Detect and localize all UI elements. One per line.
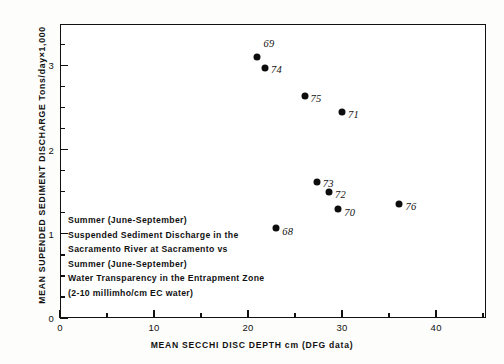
- x-axis-tick-label: 30: [337, 322, 348, 333]
- x-axis-tick: [341, 310, 342, 318]
- scatter-point: [339, 109, 346, 116]
- chart-page: MEAN SUPENDED SEDIMENT DISCHARGE Tons/da…: [0, 0, 504, 364]
- annotation-line: Summer (June-September): [68, 257, 265, 272]
- x-axis-tick-label: 20: [242, 322, 253, 333]
- annotation-line: Suspended Sediment Discharge in the: [68, 228, 265, 243]
- scatter-point-label: 74: [271, 64, 282, 75]
- y-axis-minor-tick: [60, 296, 65, 297]
- x-axis-tick-label: 0: [57, 322, 63, 333]
- y-axis-minor-tick: [60, 107, 65, 108]
- x-axis-minor-tick: [482, 313, 483, 318]
- scatter-point: [396, 201, 403, 208]
- scatter-point-label: 73: [323, 178, 334, 189]
- y-axis-tick-label: 1: [44, 228, 54, 239]
- y-axis-minor-tick: [60, 212, 65, 213]
- scatter-point-label: 76: [405, 201, 416, 212]
- scatter-point: [313, 178, 320, 185]
- y-axis-tick: [60, 65, 68, 66]
- scatter-point: [335, 206, 342, 213]
- y-axis-minor-tick: [60, 170, 65, 171]
- y-axis-minor-tick: [60, 191, 65, 192]
- annotation-line: Summer (June-September): [68, 213, 265, 228]
- y-axis-minor-tick: [60, 44, 65, 45]
- y-axis-minor-tick: [60, 275, 65, 276]
- x-axis-tick: [153, 310, 154, 318]
- annotation-line: Water Transparency in the Entrapment Zon…: [68, 271, 265, 286]
- scatter-point-label: 75: [311, 93, 322, 104]
- annotation-line: Sacramento River at Sacramento vs: [68, 242, 265, 257]
- annotation-line: (2-10 millimho/cm EC water): [68, 286, 265, 301]
- annotation-text-block: Summer (June-September)Suspended Sedimen…: [68, 213, 265, 300]
- scatter-point: [273, 224, 280, 231]
- y-axis-tick-label: 2: [44, 144, 54, 155]
- x-axis-title: MEAN SECCHI DISC DEPTH cm (DFG data): [0, 340, 504, 350]
- y-axis-tick-label: 3: [44, 60, 54, 71]
- y-axis-minor-tick: [60, 128, 65, 129]
- scatter-point-label: 72: [335, 189, 346, 200]
- x-axis-minor-tick: [388, 313, 389, 318]
- x-axis-tick: [247, 310, 248, 318]
- y-axis-minor-tick: [60, 254, 65, 255]
- scatter-point: [325, 188, 332, 195]
- x-axis-tick: [435, 310, 436, 318]
- x-axis-minor-tick: [106, 313, 107, 318]
- scatter-point: [301, 93, 308, 100]
- scatter-point: [254, 53, 261, 60]
- scatter-point-label: 71: [348, 109, 359, 120]
- x-axis-minor-tick: [294, 313, 295, 318]
- scatter-point-label: 68: [282, 226, 293, 237]
- x-axis-tick-label: 10: [148, 322, 159, 333]
- y-axis-tick: [60, 233, 68, 234]
- y-axis-minor-tick: [60, 86, 65, 87]
- x-axis-tick-label: 40: [431, 322, 442, 333]
- scatter-point: [262, 64, 269, 71]
- scatter-point-label: 69: [263, 38, 274, 49]
- scatter-point-label: 70: [344, 207, 355, 218]
- y-axis-tick: [60, 317, 68, 318]
- x-axis-minor-tick: [200, 313, 201, 318]
- y-axis-tick: [60, 149, 68, 150]
- y-axis-tick-label: 0: [44, 313, 54, 324]
